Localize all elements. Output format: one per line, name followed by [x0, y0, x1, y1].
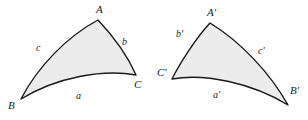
vertex-label-B: B [8, 100, 15, 111]
vertex-label-C-prime: C' [157, 67, 167, 78]
side-label-c-prime: c' [258, 46, 265, 56]
figure-canvas [0, 0, 308, 120]
side-label-b: b [122, 37, 127, 47]
curvilinear-triangles-figure: A B C a b c A' B' C' a' b' c' [0, 0, 308, 120]
side-label-b-prime: b' [176, 29, 183, 39]
side-label-a: a [76, 91, 81, 101]
vertex-label-A-prime: A' [207, 7, 216, 18]
side-label-c: c [36, 43, 40, 53]
triangle-A-prime-B-prime-C-prime-shape [172, 23, 288, 105]
side-label-a-prime: a' [213, 90, 220, 100]
vertex-label-A: A [96, 4, 103, 15]
vertex-label-B-prime: B' [290, 85, 299, 96]
vertex-label-C: C [134, 79, 141, 90]
triangle-ABC-shape [21, 20, 136, 99]
